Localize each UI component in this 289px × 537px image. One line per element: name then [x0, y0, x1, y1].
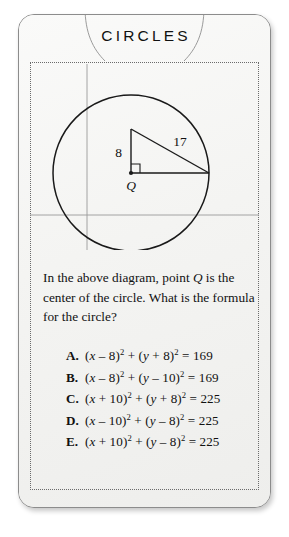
hypotenuse-length-label: 17 — [173, 134, 187, 149]
plus-operator: + ( — [131, 413, 150, 428]
choice-letter: C. — [66, 391, 85, 407]
answer-choice-b[interactable]: B. (x – 8)2 + (y – 10)2 = 169 — [66, 370, 266, 392]
x-term: – 10) — [95, 413, 126, 428]
x-term: – 8) — [95, 370, 120, 385]
question-text: In the above diagram, point Q is the cen… — [43, 268, 257, 327]
y-term: – 10) — [149, 370, 180, 385]
x-term: + 10) — [95, 391, 127, 406]
x-term: + 10) — [95, 434, 127, 449]
equals-value: = 169 — [185, 370, 219, 385]
choice-equation: (x – 8)2 + (y + 8)2 = 169 — [85, 348, 213, 364]
choice-letter: A. — [66, 348, 85, 364]
choice-letter: B. — [66, 370, 85, 386]
choice-letter: D. — [66, 413, 85, 429]
question-text-part1: In the above diagram, point — [43, 270, 193, 285]
y-term: – 8) — [156, 413, 181, 428]
choice-equation: (x + 10)2 + (y + 8)2 = 225 — [85, 391, 220, 407]
choice-equation: (x – 8)2 + (y – 10)2 = 169 — [85, 370, 219, 386]
choice-equation: (x + 10)2 + (y – 8)2 = 225 — [85, 434, 220, 450]
hypotenuse-line — [131, 129, 209, 173]
choice-letter: E. — [66, 434, 85, 450]
question-variable-q: Q — [193, 270, 203, 285]
equals-value: = 225 — [185, 413, 219, 428]
page-root: CIRCLES 8 17 Q In the — [0, 0, 289, 537]
equals-value: = 169 — [179, 348, 213, 363]
equals-value: = 225 — [185, 434, 219, 449]
leg-length-label: 8 — [115, 145, 122, 160]
choice-equation: (x – 10)2 + (y – 8)2 = 225 — [85, 413, 219, 429]
center-label: Q — [126, 178, 136, 193]
center-point-dot-icon — [129, 171, 133, 175]
answer-choice-e[interactable]: E. (x + 10)2 + (y – 8)2 = 225 — [66, 434, 266, 456]
y-term: + 8) — [156, 391, 181, 406]
circle-diagram: 8 17 Q — [30, 62, 259, 250]
answer-choice-d[interactable]: D. (x – 10)2 + (y – 8)2 = 225 — [66, 413, 266, 435]
y-term: + 8) — [149, 348, 174, 363]
plus-operator: + ( — [124, 370, 143, 385]
answer-choice-a[interactable]: A. (x – 8)2 + (y + 8)2 = 169 — [66, 348, 266, 370]
plus-operator: + ( — [132, 434, 151, 449]
x-term: – 8) — [95, 348, 120, 363]
page-title: CIRCLES — [19, 27, 270, 45]
answer-choice-list: A. (x – 8)2 + (y + 8)2 = 169 B. (x – 8)2… — [66, 348, 266, 456]
plus-operator: + ( — [124, 348, 143, 363]
plus-operator: + ( — [132, 391, 151, 406]
answer-choice-c[interactable]: C. (x + 10)2 + (y + 8)2 = 225 — [66, 391, 266, 413]
question-card: CIRCLES 8 17 Q In the — [18, 14, 271, 508]
y-term: – 8) — [156, 434, 181, 449]
equals-value: = 225 — [186, 391, 220, 406]
